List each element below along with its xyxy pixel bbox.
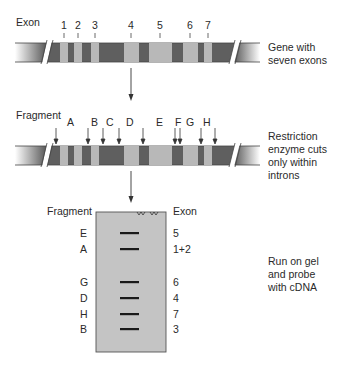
fragment-letter-B: B <box>91 116 98 128</box>
fragment-letter-H: H <box>203 116 211 128</box>
gel-band-E <box>120 232 139 234</box>
arrow-down-2 <box>129 171 134 203</box>
gel-fragment-B: B <box>80 323 87 335</box>
exon-number-1: 1 <box>61 19 67 31</box>
gel-exon-3: 3 <box>173 323 179 335</box>
gel-exon-6: 6 <box>173 276 179 288</box>
gel-band-A <box>120 248 139 250</box>
exon-number-6: 6 <box>187 19 193 31</box>
fragment-heading: Fragment <box>16 109 61 121</box>
gel-exon-4: 4 <box>173 292 179 304</box>
gel-fragment-D: D <box>80 292 88 304</box>
gel-fragment-A: A <box>80 243 87 255</box>
gene-bar-2 <box>15 143 260 167</box>
fragment-letter-C: C <box>106 116 114 128</box>
exon-2-block <box>74 43 82 62</box>
fragment-letter-E: E <box>156 116 163 128</box>
gene-caption: Gene with seven exons <box>268 41 327 67</box>
gel-exon-1-2: 1+2 <box>173 243 191 255</box>
exon-5-block <box>149 43 172 62</box>
arrow-down-1 <box>129 68 134 101</box>
exon-6-block <box>183 43 198 62</box>
gel-exon-5: 5 <box>173 227 179 239</box>
exon-number-5: 5 <box>157 19 163 31</box>
gel-band-D <box>120 297 139 299</box>
gel-fragment-E: E <box>80 227 87 239</box>
restriction-caption: Restriction enzyme cuts only within intr… <box>268 130 327 182</box>
gel-exon-7: 7 <box>173 308 179 320</box>
exon-7-block <box>204 43 212 62</box>
exon-number-2: 2 <box>75 19 81 31</box>
fragment-letter-D: D <box>126 116 134 128</box>
gel-exon-heading: Exon <box>173 205 197 217</box>
exon-3-block <box>91 43 99 62</box>
gel-fragment-G: G <box>80 276 88 288</box>
gene-bar-1 <box>15 33 260 64</box>
gel <box>96 212 166 352</box>
gel-band-B <box>120 328 139 330</box>
exon-number-7: 7 <box>205 19 211 31</box>
fragment-letter-F: F <box>175 116 181 128</box>
gel-band-G <box>120 281 139 283</box>
fragment-letter-A: A <box>67 116 74 128</box>
exon-1-block <box>60 43 68 62</box>
exon-4-block <box>124 43 139 62</box>
gel-fragment-heading: Fragment <box>47 205 92 217</box>
exon-heading: Exon <box>16 16 40 28</box>
exon-number-3: 3 <box>92 19 98 31</box>
exon-number-4: 4 <box>128 19 134 31</box>
fragment-letter-G: G <box>186 116 194 128</box>
restriction-cut-arrows <box>54 128 217 144</box>
gel-band-H <box>120 313 139 315</box>
gel-caption: Run on gel and probe with cDNA <box>268 255 319 294</box>
gel-fragment-H: H <box>80 308 88 320</box>
